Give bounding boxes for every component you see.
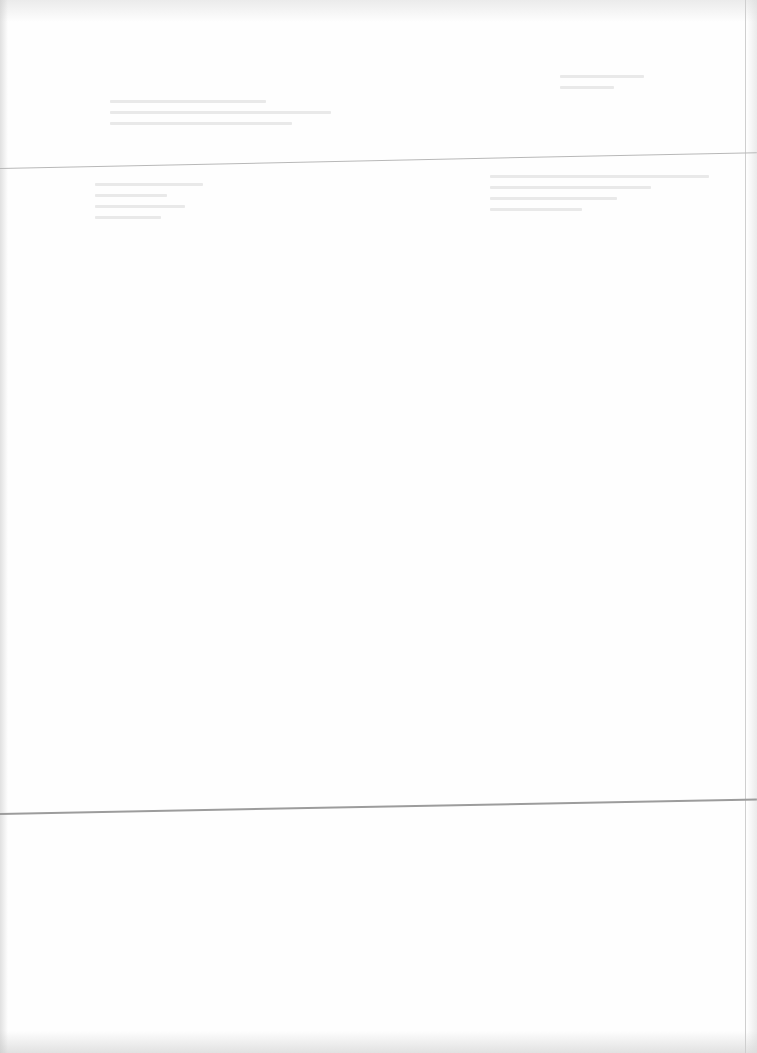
scanned-page xyxy=(0,0,757,1053)
scan-edge-left xyxy=(0,0,8,1053)
right-margin-line xyxy=(745,0,746,1053)
fold-line-top xyxy=(0,152,757,169)
ghost-text-block xyxy=(95,183,215,227)
ghost-text-block xyxy=(110,100,370,133)
scan-edge-top xyxy=(0,0,757,22)
scan-edge-bottom xyxy=(0,1031,757,1053)
fold-line-bottom xyxy=(0,798,757,815)
ghost-text-block xyxy=(490,175,720,219)
ghost-text-block xyxy=(560,75,680,97)
scan-edge-right xyxy=(747,0,757,1053)
